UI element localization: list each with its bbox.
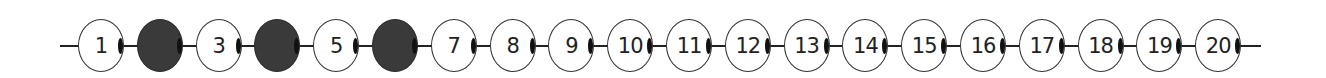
bead-numbered: 3 xyxy=(196,19,242,72)
knot-marker xyxy=(530,38,535,54)
knot-marker xyxy=(1059,38,1064,54)
bead-numbered: 17 xyxy=(1019,19,1065,72)
knot-marker xyxy=(412,38,417,54)
knot-marker xyxy=(1000,38,1005,54)
knot-marker xyxy=(706,38,711,54)
bead-filled xyxy=(137,19,183,72)
bead-numbered: 8 xyxy=(490,19,536,72)
knot-marker xyxy=(471,38,476,54)
bead-numbered: 13 xyxy=(784,19,830,72)
knot-marker xyxy=(177,38,182,54)
bead-numbered: 12 xyxy=(725,19,771,72)
bead-numbered: 7 xyxy=(431,19,477,72)
knot-marker xyxy=(118,38,123,54)
knot-marker xyxy=(1118,38,1123,54)
knot-marker xyxy=(824,38,829,54)
bead-numbered: 18 xyxy=(1078,19,1124,72)
knot-marker xyxy=(765,38,770,54)
knot-marker xyxy=(236,38,241,54)
